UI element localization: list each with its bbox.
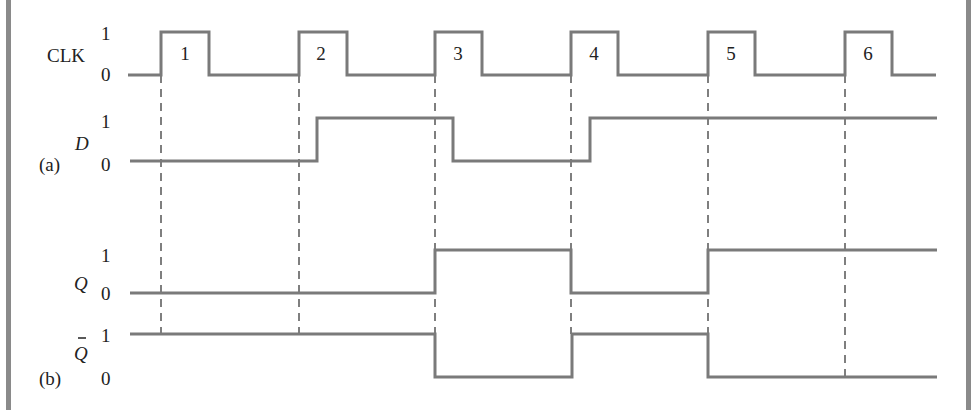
pulse-number-6: 6 xyxy=(863,43,873,64)
clk-level-0: 0 xyxy=(101,64,111,85)
clk-label: CLK xyxy=(47,45,85,66)
part-a-label: (a) xyxy=(39,154,60,176)
q-waveform xyxy=(130,250,937,293)
d-label: D xyxy=(74,133,89,154)
clk-level-1: 1 xyxy=(101,23,111,44)
pulse-number-5: 5 xyxy=(726,43,736,64)
qbar-label: Q xyxy=(74,343,88,364)
q-level-0: 0 xyxy=(101,283,111,304)
part-b-label: (b) xyxy=(39,368,61,390)
timing-diagram-figure: 1 2 3 4 5 6 CLK D (a) Q Q (b) 1 0 1 0 1 … xyxy=(0,0,973,410)
signal-names: CLK D (a) Q Q (b) xyxy=(39,45,89,390)
qbar-waveform xyxy=(130,334,937,377)
logic-level-labels: 1 0 1 0 1 0 1 0 xyxy=(101,23,111,389)
pulse-number-3: 3 xyxy=(453,43,463,64)
pulse-number-1: 1 xyxy=(180,43,190,64)
q-label: Q xyxy=(74,273,88,294)
d-waveform xyxy=(130,118,937,161)
clk-waveform xyxy=(128,32,936,75)
timing-diagram-svg: 1 2 3 4 5 6 CLK D (a) Q Q (b) 1 0 1 0 1 … xyxy=(0,0,973,410)
d-level-1: 1 xyxy=(101,111,111,132)
pulse-number-4: 4 xyxy=(589,43,599,64)
pulse-number-2: 2 xyxy=(316,43,326,64)
d-level-0: 0 xyxy=(101,154,111,175)
clock-pulse-numbers: 1 2 3 4 5 6 xyxy=(180,43,873,64)
qbar-level-0: 0 xyxy=(101,368,111,389)
q-level-1: 1 xyxy=(101,245,111,266)
clock-edge-guides xyxy=(161,75,845,377)
qbar-level-1: 1 xyxy=(101,325,111,346)
